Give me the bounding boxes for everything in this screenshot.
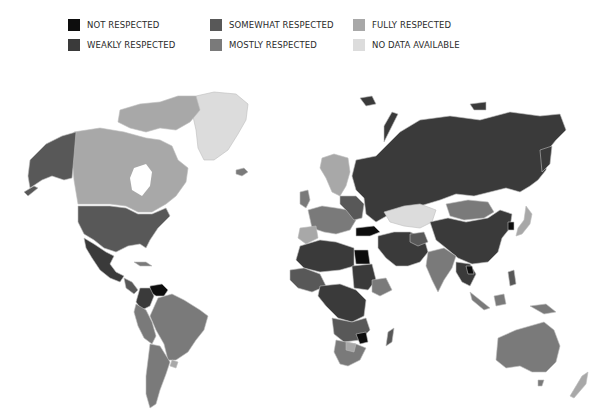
legend-label: MOSTLY RESPECTED — [229, 40, 317, 50]
legend-label: NO DATA AVAILABLE — [372, 40, 460, 50]
region-tasmania[interactable] — [538, 380, 544, 386]
region-australia[interactable] — [496, 322, 560, 372]
region-indonesia[interactable] — [470, 292, 490, 310]
region-central-africa[interactable] — [318, 284, 366, 322]
legend-item-fully-respected: FULLY RESPECTED — [353, 18, 451, 32]
region-korea[interactable] — [508, 222, 514, 230]
region-canada[interactable] — [72, 128, 188, 212]
region-japan[interactable] — [516, 206, 532, 236]
region-kamchatka[interactable] — [540, 146, 552, 172]
region-botswana[interactable] — [346, 342, 356, 352]
region-alaska[interactable] — [28, 132, 76, 188]
legend-label: WEAKLY RESPECTED — [87, 40, 175, 50]
legend-swatch — [68, 19, 80, 31]
region-philippines[interactable] — [508, 270, 516, 286]
region-united-kingdom[interactable] — [300, 190, 310, 208]
legend-label: SOMEWHAT RESPECTED — [229, 20, 334, 30]
world-map — [0, 50, 607, 418]
region-central-america[interactable] — [124, 278, 138, 294]
region-svalbard[interactable] — [360, 96, 376, 106]
legend-label: FULLY RESPECTED — [372, 20, 451, 30]
legend-item-somewhat-respected: SOMEWHAT RESPECTED — [210, 18, 334, 32]
legend-swatch — [353, 19, 365, 31]
region-zimbabwe[interactable] — [356, 332, 368, 344]
region-greenland[interactable] — [192, 92, 248, 160]
region-new-guinea[interactable] — [530, 304, 556, 314]
legend-swatch — [210, 19, 222, 31]
region-aleutians[interactable] — [24, 186, 38, 196]
legend-label: NOT RESPECTED — [87, 20, 159, 30]
region-ethiopia[interactable] — [372, 278, 392, 296]
region-uruguay[interactable] — [170, 360, 178, 368]
region-turkey[interactable] — [356, 226, 380, 236]
region-north-africa[interactable] — [296, 240, 354, 272]
region-iceland[interactable] — [236, 168, 248, 176]
region-mongolia[interactable] — [446, 200, 494, 220]
region-severnaya[interactable] — [470, 102, 486, 110]
region-madagascar[interactable] — [386, 328, 394, 346]
region-nordic[interactable] — [320, 154, 350, 196]
region-cuba[interactable] — [134, 262, 152, 266]
legend-item-not-respected: NOT RESPECTED — [68, 18, 159, 32]
region-india[interactable] — [426, 248, 456, 292]
region-new-zealand[interactable] — [570, 372, 588, 398]
region-borneo[interactable] — [494, 294, 506, 306]
region-egypt[interactable] — [354, 250, 370, 264]
region-canada-arctic[interactable] — [118, 96, 200, 132]
